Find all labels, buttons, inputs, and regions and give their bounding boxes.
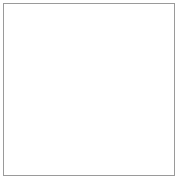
globe-wireframe-canvas	[3, 3, 175, 176]
globe-figure: Wireframe globe graticule	[0, 0, 179, 180]
